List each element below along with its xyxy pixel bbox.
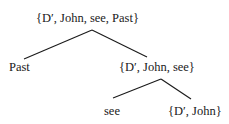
node-root: {D′, John, see, Past}: [36, 11, 139, 25]
node-past: Past: [9, 60, 30, 74]
edge-root-to-past: [24, 30, 92, 59]
node-djohnsee: {D′, John, see}: [119, 60, 195, 74]
syntax-tree-diagram: {D′, John, see, Past} Past {D′, John, se…: [0, 0, 229, 124]
node-see: see: [104, 104, 120, 118]
edge-root-to-djohnsee: [92, 30, 147, 57]
edge-djohnsee-to-djohn: [161, 79, 191, 99]
node-djohn: {D′, John}: [168, 104, 222, 118]
edge-djohnsee-to-see: [113, 79, 161, 98]
